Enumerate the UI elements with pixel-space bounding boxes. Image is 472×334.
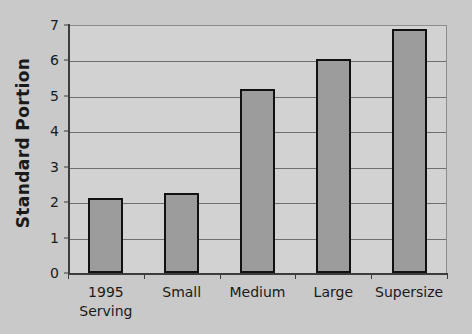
- x-tick-label: Medium: [230, 283, 286, 302]
- gridline: [68, 61, 446, 62]
- y-tick-label: 2: [50, 194, 59, 210]
- bar-chart-figure: Standard Portion 01234567 1995 ServingSm…: [0, 0, 472, 334]
- x-axis-line: [68, 273, 448, 275]
- x-tick-mark: [447, 274, 448, 279]
- x-tick-mark: [371, 274, 372, 279]
- x-tick-label: 1995 Serving: [79, 283, 132, 321]
- x-tick-mark: [68, 274, 69, 279]
- plot-area: [68, 25, 447, 273]
- bar: [164, 193, 199, 273]
- x-tick-label: Small: [162, 283, 201, 302]
- x-tick-mark: [295, 274, 296, 279]
- x-tick-label: Large: [314, 283, 353, 302]
- y-tick-label: 6: [50, 52, 59, 68]
- y-axis-title: Standard Portion: [13, 57, 33, 228]
- y-tick-label: 1: [50, 230, 59, 246]
- bar: [240, 89, 275, 273]
- bar: [316, 59, 351, 273]
- bar: [392, 29, 427, 273]
- y-tick-label: 4: [50, 123, 59, 139]
- x-tick-mark: [144, 274, 145, 279]
- x-tick-mark: [220, 274, 221, 279]
- y-axis-line: [68, 24, 70, 274]
- y-tick-label: 3: [50, 159, 59, 175]
- y-tick-label: 7: [50, 17, 59, 33]
- y-tick-label: 0: [50, 265, 59, 281]
- y-axis-tick-labels: 01234567: [40, 25, 64, 273]
- x-tick-label: Supersize: [375, 283, 443, 302]
- bar: [88, 198, 123, 273]
- y-tick-label: 5: [50, 88, 59, 104]
